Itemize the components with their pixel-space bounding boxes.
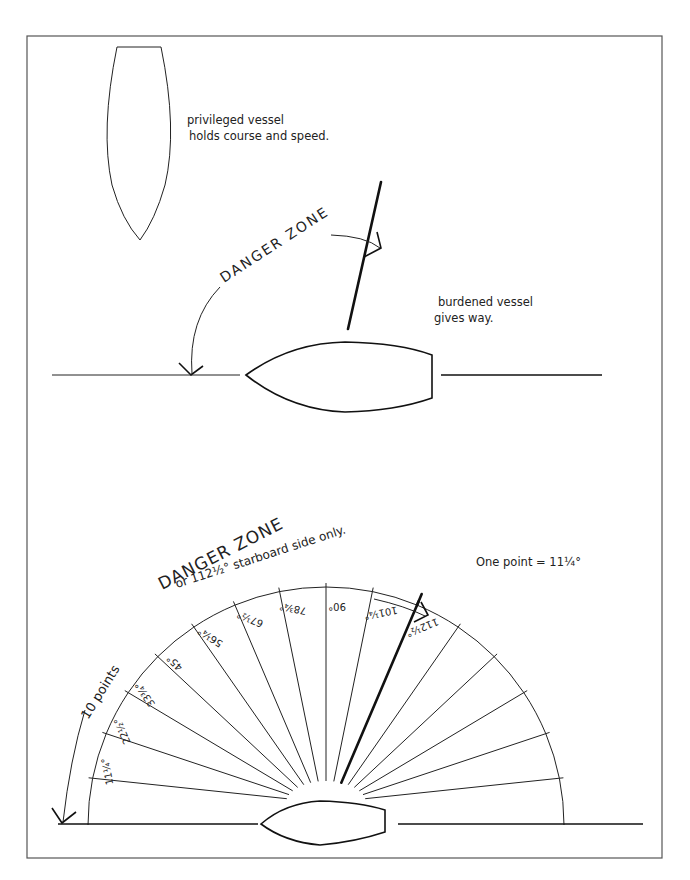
burdened-label-line2: gives way. — [434, 311, 493, 325]
bearing-label: 22½° — [112, 716, 133, 746]
privileged-vessel-course-line — [348, 182, 381, 329]
bearing-ray — [365, 778, 563, 799]
danger-zone-arc-right — [331, 235, 380, 248]
danger-arc-outer — [63, 710, 85, 822]
bearing-ray — [89, 778, 287, 799]
bearing-label: 67½° — [235, 609, 265, 630]
privileged-vessel-hull — [107, 47, 171, 240]
bearing-compass: 11¼°22½°33¾°45°56¼°67½°78¾°90°101¼°112½° — [88, 583, 564, 825]
one-point-note: One point = 11¼° — [476, 555, 581, 569]
privileged-label-line1: privileged vessel — [187, 113, 284, 127]
bearing-ray — [363, 732, 550, 794]
diagram-canvas: privileged vessel holds course and speed… — [0, 0, 690, 880]
own-vessel-hull — [261, 801, 385, 845]
danger-zone-label: DANGER ZONE — [217, 203, 332, 285]
bearing-label: 11¼° — [99, 757, 115, 786]
bearing-ray — [233, 601, 310, 782]
bearing-label: 45° — [164, 653, 184, 673]
burdened-label-line1: burdened vessel — [438, 295, 533, 309]
bearing-ray — [359, 691, 527, 791]
bearing-label: 56¼° — [196, 625, 225, 649]
arrowhead-left — [179, 363, 203, 375]
bearing-label: 78¾° — [278, 601, 307, 617]
bearing-label: 90° — [328, 601, 346, 612]
danger-zone-arc-left — [192, 287, 220, 374]
bearing-label: 33¾° — [133, 680, 157, 709]
burdened-vessel-hull — [246, 342, 432, 412]
privileged-label-line2: holds course and speed. — [189, 129, 329, 143]
bearing-label: 101¼° — [363, 604, 398, 621]
bearing-ray — [279, 588, 318, 782]
